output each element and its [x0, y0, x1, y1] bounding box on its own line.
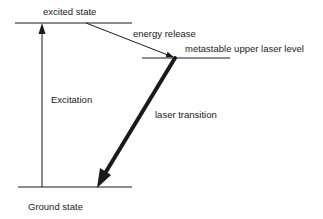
metastable-level-label: metastable upper laser level [185, 44, 304, 54]
excitation-arrowhead-icon [39, 23, 46, 34]
laser-transition-label: laser transition [155, 110, 217, 120]
energy-release-label: energy release [133, 29, 196, 39]
excited-state-label: excited state [43, 7, 96, 17]
ground-state-label: Ground state [28, 202, 83, 212]
laser-transition-arrowhead-icon [97, 168, 111, 188]
excitation-label: Excitation [51, 95, 92, 105]
